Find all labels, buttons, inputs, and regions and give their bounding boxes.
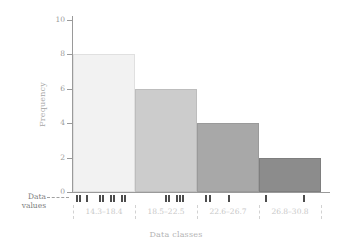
- bar: [197, 123, 259, 192]
- rug-mark: [76, 195, 78, 202]
- rug-mark: [303, 195, 305, 202]
- rug-mark: [168, 195, 170, 202]
- class-divider: [321, 205, 322, 219]
- class-interval-label: 26.8–30.8: [259, 205, 321, 219]
- data-values-label-line1: Data: [2, 192, 46, 201]
- class-interval-label: 14.3–18.4: [73, 205, 135, 219]
- rug-mark: [209, 195, 211, 202]
- y-tick-label: 4: [60, 119, 65, 127]
- y-axis-title: Frequency: [38, 55, 47, 155]
- bar: [135, 89, 197, 192]
- bar: [259, 158, 321, 192]
- rug-mark: [205, 195, 207, 202]
- rug-mark: [124, 195, 126, 202]
- y-tick-mark: [67, 89, 72, 90]
- class-divider: [135, 205, 136, 219]
- rug-mark: [176, 195, 178, 202]
- rug-mark: [113, 195, 115, 202]
- rug-mark: [99, 195, 101, 202]
- rug-mark: [179, 195, 181, 202]
- rug-mark: [79, 195, 81, 202]
- bar: [73, 54, 135, 192]
- y-tick-mark: [67, 54, 72, 55]
- rug-mark: [182, 195, 184, 202]
- rug-mark: [228, 195, 230, 202]
- histogram-chart: Frequency 0246810 Data values 14.3–18.41…: [0, 0, 352, 252]
- y-tick-mark: [67, 192, 72, 193]
- class-interval-label: 22.6–26.7: [197, 205, 259, 219]
- class-divider: [259, 205, 260, 219]
- y-tick-mark: [67, 158, 72, 159]
- rug-mark: [265, 195, 267, 202]
- x-axis-line: [72, 192, 330, 193]
- class-divider: [197, 205, 198, 219]
- y-tick-mark: [67, 20, 72, 21]
- rug-mark: [102, 195, 104, 202]
- rug-mark: [110, 195, 112, 202]
- class-divider: [73, 205, 74, 219]
- leader-line: [47, 197, 69, 198]
- rug-mark: [165, 195, 167, 202]
- rug-mark: [121, 195, 123, 202]
- rug-mark: [86, 195, 88, 202]
- x-axis-title: Data classes: [0, 230, 352, 239]
- y-tick-mark: [67, 123, 72, 124]
- y-tick-label: 6: [60, 85, 65, 93]
- y-tick-label: 10: [55, 16, 65, 24]
- class-interval-label: 18.5–22.5: [135, 205, 197, 219]
- class-labels-row: 14.3–18.418.5–22.522.6–26.726.8–30.8: [0, 205, 352, 219]
- y-tick-label: 8: [60, 51, 65, 59]
- y-tick-label: 2: [60, 154, 65, 162]
